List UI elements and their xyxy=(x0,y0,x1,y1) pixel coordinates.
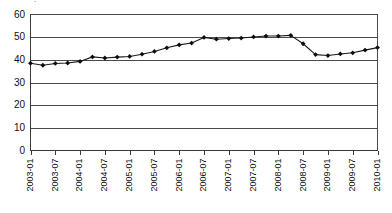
x-axis-tick-label: 2006-01 xyxy=(174,159,184,192)
data-point-marker xyxy=(164,45,169,50)
data-point-marker xyxy=(375,45,380,50)
data-point-marker xyxy=(177,42,182,47)
data-point-marker xyxy=(226,36,231,41)
x-axis-tick-label: 2008-07 xyxy=(298,159,308,192)
data-point-marker xyxy=(40,63,45,68)
x-axis-tick-label: 2005-01 xyxy=(124,159,134,192)
data-point-marker xyxy=(127,54,132,59)
data-point-marker xyxy=(338,52,343,57)
y-axis-tick-label: 50 xyxy=(14,31,26,42)
x-axis-tick-label: 2007-07 xyxy=(248,159,258,192)
data-point-marker xyxy=(202,35,207,40)
plot-area-frame xyxy=(31,15,378,151)
x-axis-tick-label: 2009-01 xyxy=(322,159,332,192)
data-point-marker xyxy=(102,56,107,61)
x-axis-tick-label: 2010-01 xyxy=(372,159,382,192)
x-axis-tick-label: 2003-01 xyxy=(25,159,35,192)
data-point-marker xyxy=(350,50,355,55)
data-point-marker xyxy=(90,54,95,59)
x-axis-tick-label: 2005-07 xyxy=(149,159,159,192)
x-axis-tick-label: 2006-07 xyxy=(198,159,208,192)
y-axis-tick-labels: 0102030405060 xyxy=(14,9,26,156)
y-axis-tick-label: 40 xyxy=(14,54,26,65)
y-axis-tick-label: 0 xyxy=(19,145,25,156)
data-point-marker xyxy=(189,41,194,46)
y-axis-tick-label: 10 xyxy=(14,122,26,133)
y-axis-tick-label: 20 xyxy=(14,99,26,110)
x-axis-tick-labels: 2003-012003-072004-012004-072005-012005-… xyxy=(25,159,382,192)
x-axis-tick-label: 2007-01 xyxy=(223,159,233,192)
data-point-marker xyxy=(28,61,33,66)
data-point-marker xyxy=(363,48,368,53)
data-point-marker xyxy=(239,36,244,41)
data-point-marker xyxy=(78,59,83,64)
x-axis-tick-label: 2009-07 xyxy=(347,159,357,192)
data-point-marker xyxy=(251,35,256,40)
x-axis-tick-label: 2008-01 xyxy=(273,159,283,192)
x-axis-tick-label: 2004-01 xyxy=(74,159,84,192)
data-point-marker xyxy=(115,55,120,60)
data-point-marker xyxy=(140,52,145,57)
chart-plot-svg: 0102030405060 2003-012003-072004-012004-… xyxy=(0,0,392,213)
grid-lines xyxy=(31,38,378,129)
x-axis-tick-label: 2003-07 xyxy=(50,159,60,192)
line-chart: . 0102030405060 2003-012003-072004-01200… xyxy=(0,0,392,213)
y-axis-tick-label: 30 xyxy=(14,77,26,88)
x-axis-tick-marks xyxy=(32,151,379,155)
y-axis-tick-label: 60 xyxy=(14,9,26,20)
data-point-marker xyxy=(152,49,157,54)
data-point-marker xyxy=(65,61,70,66)
data-point-marker xyxy=(53,61,58,66)
data-point-marker xyxy=(326,53,331,58)
x-axis-tick-label: 2004-07 xyxy=(99,159,109,192)
series-data-markers xyxy=(28,33,380,68)
